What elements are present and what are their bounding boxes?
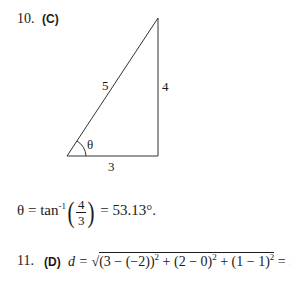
horizontal-leg-label: 3 <box>108 159 115 175</box>
sqrt-icon: √ <box>91 254 99 269</box>
exp-3: 2 <box>270 252 275 262</box>
term-2: + (2 − 0) <box>159 254 212 269</box>
term-1: (3 − (−2)) <box>99 254 154 269</box>
problem-10-solution: θ = tan-1(43) = 53.13°. <box>17 195 156 229</box>
angle-arc-icon <box>77 141 86 156</box>
hypotenuse-label: 5 <box>102 78 109 94</box>
radicand: (3 − (−2))2 + (2 − 0)2 + (1 − 1)2 <box>99 252 274 269</box>
vertical-leg-label: 4 <box>162 79 169 95</box>
theta-result: = 53.13°. <box>100 202 156 218</box>
theta-lhs: θ = tan <box>17 202 58 218</box>
distance-result: = 5.4 <box>278 254 290 269</box>
fraction-numerator: 4 <box>76 197 87 213</box>
right-triangle-figure <box>0 0 290 190</box>
fraction-denominator: 3 <box>76 213 87 228</box>
distance-lhs: d = <box>68 254 88 269</box>
right-paren: ) <box>88 195 95 229</box>
inverse-exponent: -1 <box>58 201 66 211</box>
term-3: + (1 − 1) <box>217 254 270 269</box>
angle-theta-label: θ <box>87 137 93 153</box>
problem-11-number: 11. <box>17 253 34 269</box>
problem-11-solution: d = √(3 − (−2))2 + (2 − 0)2 + (1 − 1)2 =… <box>68 252 290 270</box>
left-paren: ( <box>67 195 74 229</box>
fraction: 43 <box>76 197 87 228</box>
problem-11-answer: (D) <box>44 255 61 269</box>
